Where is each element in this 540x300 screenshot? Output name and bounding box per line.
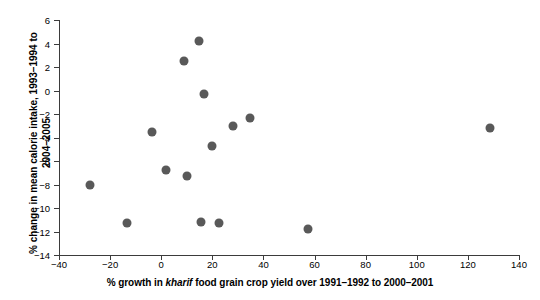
data-point <box>228 121 237 130</box>
y-tick-mark <box>54 232 59 233</box>
x-tick-label: 120 <box>460 259 476 270</box>
y-axis-title-line2: 2004–2005 <box>40 13 53 273</box>
y-tick-mark <box>54 255 59 256</box>
x-tick-label: −20 <box>102 259 118 270</box>
x-axis-line <box>59 255 519 256</box>
x-axis-title: % growth in kharif food grain crop yield… <box>0 277 540 288</box>
y-axis-line <box>59 20 60 256</box>
plot-area: −40−20020406080100120140 6420−2−4−6−8−10… <box>0 0 540 300</box>
x-axis-title-post: food grain crop yield over 1991–1992 to … <box>192 277 433 288</box>
y-tick-mark <box>54 185 59 186</box>
data-point <box>214 219 223 228</box>
x-axis-title-italic: kharif <box>165 277 192 288</box>
x-tick-label: 40 <box>258 259 269 270</box>
data-point <box>245 113 254 122</box>
data-point <box>196 218 205 227</box>
x-axis-title-pre: % growth in <box>107 277 166 288</box>
y-tick-mark <box>54 91 59 92</box>
y-tick-mark <box>54 161 59 162</box>
y-tick-mark <box>54 44 59 45</box>
y-tick-mark <box>54 114 59 115</box>
data-point <box>179 57 188 66</box>
data-point <box>147 127 156 136</box>
x-tick-label: 20 <box>207 259 218 270</box>
data-point <box>85 180 94 189</box>
y-axis-title-line1: % change in mean calorie intake, 1993–19… <box>27 13 40 273</box>
scatter-chart-figure: −40−20020406080100120140 6420−2−4−6−8−10… <box>0 0 540 300</box>
x-tick-label: −40 <box>51 259 67 270</box>
y-tick-mark <box>54 20 59 21</box>
data-point <box>486 124 495 133</box>
x-tick-label: 60 <box>309 259 320 270</box>
data-point <box>199 90 208 99</box>
y-tick-mark <box>54 138 59 139</box>
data-point <box>194 37 203 46</box>
x-tick-label: 0 <box>159 259 164 270</box>
y-tick-mark <box>54 208 59 209</box>
y-tick-mark <box>54 67 59 68</box>
x-tick-label: 100 <box>409 259 425 270</box>
data-point <box>182 172 191 181</box>
x-tick-label: 140 <box>511 259 527 270</box>
data-point <box>304 225 313 234</box>
y-axis-title: % change in mean calorie intake, 1993–19… <box>27 13 53 273</box>
data-point <box>162 166 171 175</box>
x-tick-label: 80 <box>360 259 371 270</box>
data-point <box>122 219 131 228</box>
data-point <box>208 141 217 150</box>
